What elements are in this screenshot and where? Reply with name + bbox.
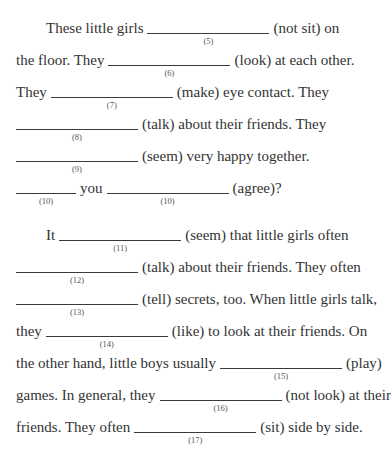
blank-number-label: (10) [107,196,229,206]
answer-blank[interactable]: (13) [16,283,138,315]
answer-blank[interactable]: (17) [134,411,256,443]
blank-underline [16,272,138,273]
sentence-text: (not sit) on [273,12,339,38]
sentence-text: (talk) about their friends. They often [142,251,361,277]
text-line: They(7)(make) eye contact. They [16,76,329,108]
text-line: games. In general, they(16)(not look) at… [16,379,391,411]
sentence-text: (seem) very happy together. [142,140,309,166]
sentence-text: (sit) side by side. [260,411,363,437]
text-line: friends. They often(17)(sit) side by sid… [16,411,363,443]
answer-blank[interactable]: (5) [147,12,269,44]
blank-underline [134,432,256,433]
sentence-text: (not look) at their [286,379,391,405]
text-line: (10)you(10)(agree)? [16,172,282,204]
answer-blank[interactable]: (6) [108,44,230,76]
text-line: (13)(tell) secrets, too. When little gir… [16,283,377,315]
blank-underline [51,97,173,98]
sentence-text: It [46,219,55,245]
text-line: the other hand, little boys usually(15)(… [16,347,382,379]
text-line: (8)(talk) about their friends. They [16,108,326,140]
answer-blank[interactable]: (15) [220,347,342,379]
blank-number-label: (10) [16,196,76,206]
sentence-text: they [16,315,42,341]
sentence-text: friends. They often [16,411,130,437]
blank-underline [46,336,168,337]
sentence-text: games. In general, they [16,379,156,405]
sentence-text: These little girls [46,12,143,38]
sentence-text: (talk) about their friends. They [142,108,326,134]
sentence-text: the floor. They [16,44,104,70]
blank-underline [59,240,181,241]
answer-blank[interactable]: (7) [51,76,173,108]
blank-underline [108,65,230,66]
sentence-text: (make) eye contact. They [177,76,329,102]
blank-underline [147,33,269,34]
sentence-text: (seem) that little girls often [185,219,348,245]
sentence-text: the other hand, little boys usually [16,347,216,373]
blank-underline [16,304,138,305]
answer-blank[interactable]: (10) [16,172,76,204]
text-line: (12)(talk) about their friends. They oft… [16,251,361,283]
text-line: they(14)(like) to look at their friends.… [16,315,367,347]
answer-blank[interactable]: (16) [160,379,282,411]
sentence-text: (look) at each other. [234,44,354,70]
blank-underline [16,129,138,130]
answer-blank[interactable]: (9) [16,140,138,172]
blank-underline [160,400,282,401]
text-line: These little girls(5)(not sit) on [46,12,339,44]
answer-blank[interactable]: (10) [107,172,229,204]
sentence-text: you [80,172,103,198]
text-line: It(11)(seem) that little girls often [46,219,348,251]
sentence-text: (tell) secrets, too. When little girls t… [142,283,377,309]
sentence-text: They [16,76,47,102]
sentence-text: (like) to look at their friends. On [172,315,367,341]
blank-underline [16,161,138,162]
blank-underline [220,368,342,369]
blank-number-label: (17) [134,435,256,445]
blank-underline [16,193,76,194]
text-line: the floor. They(6)(look) at each other. [16,44,354,76]
answer-blank[interactable]: (12) [16,251,138,283]
answer-blank[interactable]: (14) [46,315,168,347]
answer-blank[interactable]: (11) [59,219,181,251]
answer-blank[interactable]: (8) [16,108,138,140]
blank-underline [107,193,229,194]
sentence-text: (play) [346,347,382,373]
text-line: (9)(seem) very happy together. [16,140,309,172]
sentence-text: (agree)? [233,172,282,198]
